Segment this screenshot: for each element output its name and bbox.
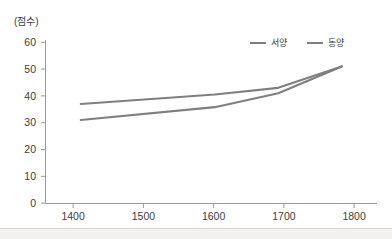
y-tick-label-60: 60 [10, 36, 36, 48]
y-axis-ticks [41, 42, 46, 203]
legend-label-dongyang: 동양 [328, 36, 344, 49]
y-tick-label-20: 20 [10, 143, 36, 155]
x-tick-label-1500: 1500 [121, 210, 165, 222]
legend-swatch-dongyang [307, 42, 323, 44]
bottom-band [0, 229, 392, 239]
x-tick-label-1600: 1600 [192, 210, 236, 222]
y-tick-label-10: 10 [10, 170, 36, 182]
series-line-dongyang [81, 66, 342, 120]
x-tick-label-1700: 1700 [262, 210, 306, 222]
y-tick-label-30: 30 [10, 116, 36, 128]
x-tick-label-1400: 1400 [51, 210, 95, 222]
legend-swatch-seoyang [250, 42, 266, 44]
chart-figure: (점수) 60 50 40 30 20 [0, 0, 392, 239]
series-line-seoyang [81, 66, 342, 104]
legend-item-seoyang: 서양 [250, 36, 287, 49]
legend-item-dongyang: 동양 [307, 36, 344, 49]
x-axis-ticks [73, 204, 354, 209]
y-tick-label-0: 0 [10, 197, 36, 209]
legend-label-seoyang: 서양 [271, 36, 287, 49]
y-tick-label-50: 50 [10, 63, 36, 75]
y-tick-label-40: 40 [10, 90, 36, 102]
x-tick-label-1800: 1800 [332, 210, 376, 222]
